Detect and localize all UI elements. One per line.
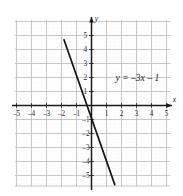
y-tick-label: –5 [81,172,90,180]
y-tick-label: 5 [83,32,87,40]
graph-svg: x y –5 –4 –3 –2 –1 1 2 3 4 5 5 4 3 2 1 –… [0,0,183,196]
y-tick-label: –4 [81,158,90,166]
x-tick-label: –2 [57,110,66,118]
x-tick-label: –4 [27,110,36,118]
y-tick-label: –1 [81,116,90,124]
x-tick-label: 3 [135,110,139,118]
x-tick-label: 5 [165,110,169,118]
x-tick-label: 1 [105,110,109,118]
y-tick-label: –2 [81,130,90,138]
x-tick-label: 2 [120,110,124,118]
x-tick-label: –5 [12,110,21,118]
x-tick-label: –3 [42,110,51,118]
y-axis-label: y [94,14,99,23]
y-tick-label: –3 [81,144,90,152]
y-tick-label: 3 [83,60,87,68]
x-tick-label: –1 [72,110,81,118]
equation-annotation: y = –3x – 1 [115,72,160,83]
y-tick-label: 4 [83,46,87,54]
y-tick-label: 2 [83,74,87,82]
x-axis-label: x [172,95,177,104]
x-tick-label: 4 [150,110,154,118]
coordinate-plane-figure: x y –5 –4 –3 –2 –1 1 2 3 4 5 5 4 3 2 1 –… [0,0,183,196]
